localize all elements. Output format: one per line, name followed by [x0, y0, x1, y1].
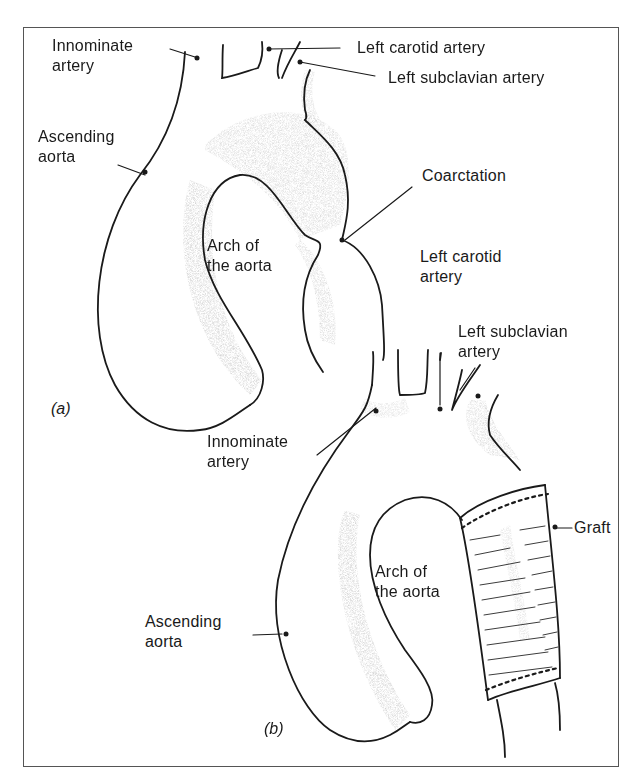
label-a-ascending-aorta: Ascending aorta [38, 127, 115, 167]
label-line: Innominate [207, 432, 288, 452]
label-b-innominate-artery: Innominate artery [207, 432, 288, 472]
label-b-graft: Graft [574, 518, 611, 538]
label-line: artery [420, 267, 502, 287]
aorta-diagram [0, 0, 638, 782]
label-b-left-subclavian-artery: Left subclavian artery [458, 322, 568, 362]
panel-label-b: (b) [264, 720, 284, 738]
label-line: artery [458, 342, 568, 362]
label-line: artery [207, 452, 288, 472]
label-a-left-carotid-artery: Left carotid artery [357, 38, 485, 58]
label-line: Innominate [52, 36, 133, 56]
label-a-left-subclavian-artery: Left subclavian artery [388, 68, 544, 88]
label-b-left-carotid-artery: Left carotid artery [420, 247, 502, 287]
label-line: Ascending [38, 127, 115, 147]
label-a-innominate-artery: Innominate artery [52, 36, 133, 76]
graft-tube [460, 485, 560, 700]
label-b-ascending-aorta: Ascending aorta [145, 612, 222, 652]
label-line: Arch of [375, 562, 440, 582]
label-line: aorta [145, 632, 222, 652]
label-line: artery [52, 56, 133, 76]
label-line: Left subclavian [458, 322, 568, 342]
label-line: the aorta [207, 256, 272, 276]
label-b-arch-of-the-aorta: Arch of the aorta [375, 562, 440, 602]
label-a-coarctation: Coarctation [422, 166, 506, 186]
panel-label-a: (a) [51, 400, 71, 418]
label-line: Ascending [145, 612, 222, 632]
label-line: aorta [38, 147, 115, 167]
label-line: Arch of [207, 236, 272, 256]
label-a-arch-of-the-aorta: Arch of the aorta [207, 236, 272, 276]
panel-b-drawing [253, 350, 572, 757]
label-line: Left carotid [420, 247, 502, 267]
label-line: the aorta [375, 582, 440, 602]
